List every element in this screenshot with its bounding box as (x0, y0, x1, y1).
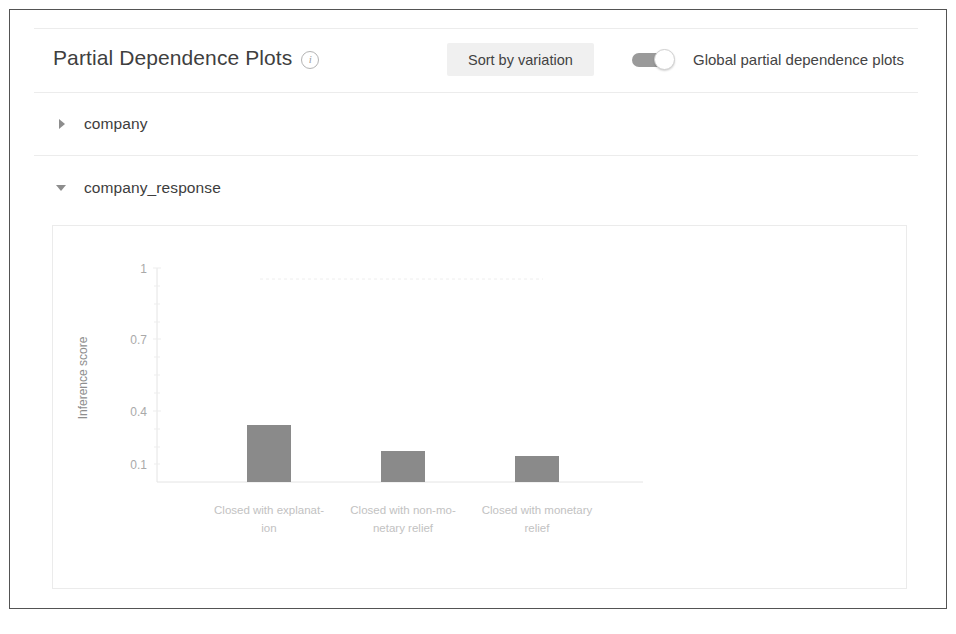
y-tick-label: 0.7 (130, 333, 147, 347)
card-header: Partial Dependence Plots i Sort by varia… (34, 28, 918, 93)
y-tick-label: 0.4 (130, 405, 147, 419)
sort-by-variation-button[interactable]: Sort by variation (447, 43, 594, 76)
partial-dependence-card: Partial Dependence Plots i Sort by varia… (34, 28, 918, 598)
feature-label-company-response: company_response (84, 179, 221, 197)
chevron-right-icon[interactable] (56, 118, 68, 130)
y-tick-label: 0.1 (130, 458, 147, 472)
bar-closed-with-explanation[interactable] (247, 425, 291, 482)
info-circle-icon[interactable]: i (301, 51, 319, 69)
feature-row-company-response[interactable]: company_response (34, 156, 918, 219)
global-pdp-toggle-label: Global partial dependence plots (693, 51, 904, 68)
bar-closed-with-monetary-relief[interactable] (515, 456, 559, 482)
x-tick-label-cont: relief (525, 522, 551, 534)
outer-frame: Partial Dependence Plots i Sort by varia… (9, 9, 947, 609)
chart-panel: Inference score 1 0.7 0.4 0.1 Closed wit… (52, 225, 907, 589)
global-pdp-toggle[interactable] (632, 49, 682, 70)
x-tick-label-cont: ion (261, 522, 276, 534)
chevron-down-icon[interactable] (56, 182, 68, 194)
x-tick-label: Closed with explanat- (214, 504, 324, 516)
page-title: Partial Dependence Plots (53, 46, 292, 70)
screenshot-root: Partial Dependence Plots i Sort by varia… (0, 0, 956, 634)
toggle-knob[interactable] (654, 49, 675, 70)
global-pdp-toggle-group: Global partial dependence plots (632, 49, 904, 70)
x-tick-label: Closed with non-mo- (350, 504, 456, 516)
x-tick-label-cont: netary relief (373, 522, 434, 534)
bar-closed-with-non-monetary-relief[interactable] (381, 451, 425, 482)
feature-label-company: company (84, 115, 148, 133)
partial-dependence-bar-chart: Inference score 1 0.7 0.4 0.1 Closed wit… (53, 226, 906, 588)
y-axis-title: Inference score (76, 336, 90, 419)
y-tick-label: 1 (140, 262, 147, 276)
feature-row-company[interactable]: company (34, 93, 918, 156)
title-block: Partial Dependence Plots i (53, 46, 319, 70)
x-tick-label: Closed with monetary (482, 504, 593, 516)
